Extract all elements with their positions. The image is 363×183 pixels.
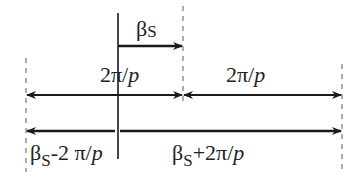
period-label-right: 2π/p: [226, 62, 265, 87]
plus-label: βS+2π/p: [172, 140, 244, 170]
beta-s-label: βS: [136, 16, 157, 41]
minus-label: βS-2 π/p: [30, 140, 103, 170]
period-label-left: 2π/p: [100, 62, 139, 87]
phase-diagram: βS 2π/p 2π/p βS-2 π/p βS+2π/p: [0, 0, 363, 183]
